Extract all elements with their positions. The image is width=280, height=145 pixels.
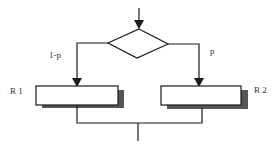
box-label-r2: R 2 bbox=[254, 85, 267, 95]
box-r1 bbox=[36, 86, 124, 108]
branch-label-right: p bbox=[210, 46, 215, 56]
box-r2 bbox=[161, 86, 248, 109]
decision-diamond bbox=[108, 29, 168, 58]
branch-label-left: 1-p bbox=[49, 50, 61, 60]
flowchart-canvas: 1-p p R 1 R 2 bbox=[0, 0, 280, 145]
merge-connector bbox=[77, 105, 202, 141]
input-arrow bbox=[134, 8, 144, 29]
left-branch-arrow bbox=[72, 43, 108, 87]
box-label-r1: R 1 bbox=[10, 86, 23, 96]
right-branch-arrow bbox=[168, 44, 204, 87]
